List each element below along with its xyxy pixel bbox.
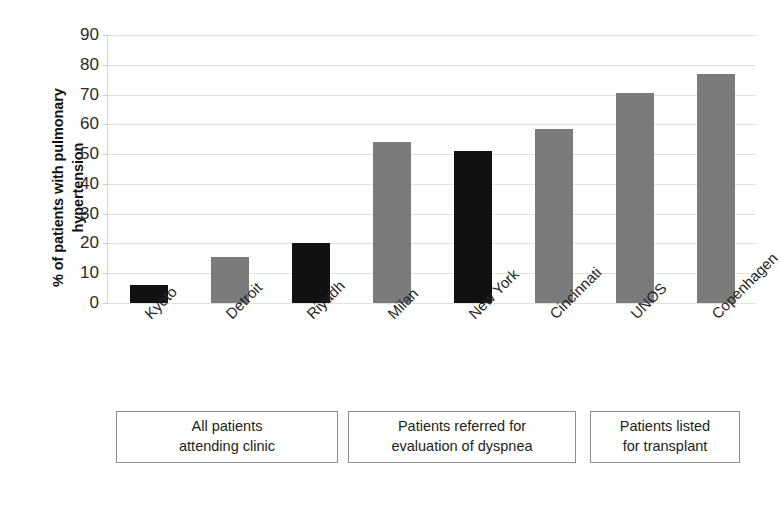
y-tick-mark-0: [103, 303, 108, 304]
group-box-line-1: Patients listed: [620, 417, 710, 437]
y-tick-mark-60: [103, 124, 108, 125]
group-box-line-1: Patients referred for: [391, 417, 532, 437]
group-box-line-2: evaluation of dyspnea: [391, 437, 532, 457]
y-tick-label-50: 50: [80, 144, 99, 164]
gridline-90: [108, 35, 756, 36]
plot-area: 0102030405060708090: [108, 35, 756, 303]
group-box-3: Patients listedfor transplant: [590, 411, 740, 463]
group-box-line-2: attending clinic: [179, 437, 275, 457]
gridline-40: [108, 184, 756, 185]
bar-milan: [373, 142, 411, 303]
y-tick-mark-10: [103, 273, 108, 274]
y-axis-line: [107, 35, 108, 303]
bar-new-york: [454, 151, 492, 303]
y-tick-label-40: 40: [80, 174, 99, 194]
gridline-80: [108, 65, 756, 66]
gridline-60: [108, 124, 756, 125]
y-tick-label-80: 80: [80, 55, 99, 75]
y-tick-label-0: 0: [90, 293, 99, 313]
y-tick-mark-20: [103, 243, 108, 244]
y-tick-mark-90: [103, 35, 108, 36]
gridline-0: [108, 303, 756, 304]
y-tick-label-60: 60: [80, 114, 99, 134]
gridline-10: [108, 273, 756, 274]
bar-unos: [616, 93, 654, 303]
group-box-line-2: for transplant: [620, 437, 710, 457]
y-tick-label-90: 90: [80, 25, 99, 45]
y-tick-mark-30: [103, 214, 108, 215]
y-tick-mark-70: [103, 95, 108, 96]
y-tick-mark-40: [103, 184, 108, 185]
group-box-label: All patientsattending clinic: [179, 417, 275, 456]
y-tick-label-70: 70: [80, 85, 99, 105]
group-box-1: All patientsattending clinic: [116, 411, 338, 463]
gridline-30: [108, 214, 756, 215]
gridline-50: [108, 154, 756, 155]
bar-cincinnati: [535, 129, 573, 303]
y-tick-label-30: 30: [80, 204, 99, 224]
group-box-line-1: All patients: [179, 417, 275, 437]
y-tick-mark-50: [103, 154, 108, 155]
group-box-2: Patients referred forevaluation of dyspn…: [348, 411, 576, 463]
group-box-label: Patients listedfor transplant: [620, 417, 710, 456]
group-box-label: Patients referred forevaluation of dyspn…: [391, 417, 532, 456]
gridline-20: [108, 243, 756, 244]
gridline-70: [108, 95, 756, 96]
y-tick-label-20: 20: [80, 233, 99, 253]
y-tick-label-10: 10: [80, 263, 99, 283]
y-tick-mark-80: [103, 65, 108, 66]
bar-copenhagen: [697, 74, 735, 303]
